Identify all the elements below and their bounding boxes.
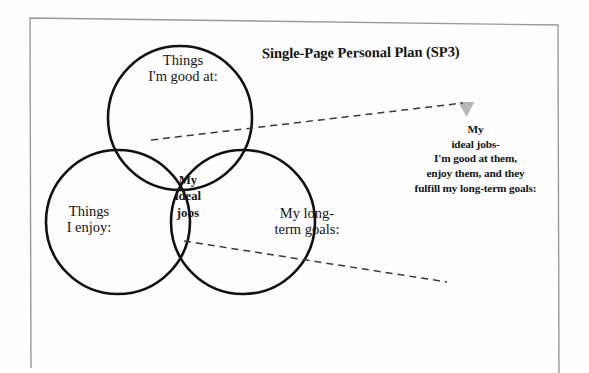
circle-label-enjoy: Things I enjoy: xyxy=(34,203,144,235)
connector-line-lower xyxy=(184,241,447,282)
scanned-page: Single-Page Personal Plan (SP3) Things I… xyxy=(0,0,589,373)
callout-label-ideal-jobs-detail: My ideal jobs- I'm good at them, enjoy t… xyxy=(383,122,568,195)
circle-label-long-term-goals: My long- term goals: xyxy=(243,205,371,237)
circle-label-good-at: Things I'm good at: xyxy=(108,52,258,84)
intersection-label-ideal-jobs: My ideal jobs xyxy=(151,172,225,221)
page-title: Single-Page Personal Plan (SP3) xyxy=(262,43,532,62)
